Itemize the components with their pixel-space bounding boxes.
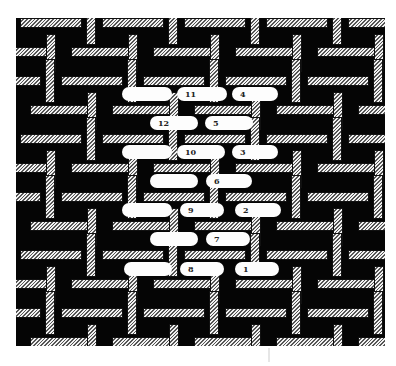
vertical-strip: [86, 117, 96, 161]
horizontal-strip: [225, 76, 287, 86]
horizontal-strip: [30, 337, 92, 346]
vertical-strip: [86, 18, 96, 45]
horizontal-strip: [20, 18, 82, 28]
marker-label: 5: [213, 116, 219, 130]
horizontal-strip: [102, 250, 164, 260]
horizontal-strip: [184, 134, 246, 144]
horizontal-strip: [20, 134, 82, 144]
scan-artifact: [268, 348, 270, 362]
horizontal-strip: [358, 337, 385, 346]
horizontal-strip: [317, 47, 379, 57]
horizontal-strip: [276, 337, 338, 346]
horizontal-strip: [194, 337, 256, 346]
vertical-strip: [168, 18, 178, 45]
horizontal-strip: [276, 105, 338, 115]
marker-5: 5: [205, 116, 253, 130]
horizontal-strip: [307, 76, 369, 86]
marker-label: 11: [185, 87, 196, 101]
horizontal-strip: [184, 250, 246, 260]
horizontal-strip: [235, 163, 297, 173]
vertical-strip: [127, 291, 137, 335]
horizontal-strip: [16, 76, 41, 86]
horizontal-strip: [61, 192, 123, 202]
marker-blank: [122, 87, 172, 101]
horizontal-strip: [235, 279, 297, 289]
horizontal-strip: [194, 221, 256, 231]
horizontal-strip: [153, 279, 215, 289]
horizontal-strip: [307, 192, 369, 202]
marker-6: 6: [206, 174, 252, 188]
vertical-strip: [209, 291, 219, 335]
horizontal-strip: [266, 134, 328, 144]
vertical-strip: [332, 18, 342, 45]
horizontal-strip: [266, 18, 328, 28]
marker-blank: [124, 262, 172, 276]
marker-3: 3: [232, 145, 278, 159]
marker-label: 9: [188, 203, 194, 217]
horizontal-strip: [358, 105, 385, 115]
horizontal-strip: [20, 250, 82, 260]
horizontal-strip: [184, 18, 246, 28]
marker-label: 1: [243, 262, 249, 276]
vertical-strip: [333, 324, 343, 346]
horizontal-strip: [71, 279, 133, 289]
horizontal-strip: [225, 192, 287, 202]
vertical-strip: [373, 291, 383, 335]
horizontal-strip: [358, 221, 385, 231]
horizontal-strip: [225, 308, 287, 318]
marker-12: 12: [150, 116, 198, 130]
horizontal-strip: [153, 47, 215, 57]
marker-2: 2: [235, 203, 281, 217]
marker-8: 8: [180, 262, 224, 276]
marker-label: 7: [214, 232, 220, 246]
marker-1: 1: [235, 262, 279, 276]
vertical-strip: [291, 291, 301, 335]
horizontal-strip: [235, 47, 297, 57]
marker-label: 4: [240, 87, 246, 101]
horizontal-strip: [61, 76, 123, 86]
vertical-strip: [45, 291, 55, 335]
horizontal-strip: [30, 221, 92, 231]
vertical-strip: [332, 117, 342, 161]
horizontal-strip: [143, 192, 205, 202]
horizontal-strip: [307, 308, 369, 318]
vertical-strip: [87, 324, 97, 346]
horizontal-strip: [16, 192, 41, 202]
horizontal-strip: [153, 163, 215, 173]
horizontal-strip: [276, 221, 338, 231]
vertical-strip: [291, 175, 301, 219]
marker-7: 7: [206, 232, 250, 246]
horizontal-strip: [348, 250, 385, 260]
vertical-strip: [169, 324, 179, 346]
horizontal-strip: [143, 76, 205, 86]
horizontal-strip: [112, 337, 174, 346]
vertical-strip: [373, 59, 383, 103]
marker-9: 9: [180, 203, 224, 217]
vertical-strip: [332, 233, 342, 277]
horizontal-strip: [112, 221, 174, 231]
marker-11: 11: [177, 87, 227, 101]
vertical-strip: [291, 59, 301, 103]
marker-label: 10: [185, 145, 196, 159]
horizontal-strip: [16, 308, 41, 318]
horizontal-strip: [30, 105, 92, 115]
marker-label: 3: [240, 145, 246, 159]
horizontal-strip: [71, 163, 133, 173]
weave-pattern: [16, 18, 385, 346]
vertical-strip: [250, 18, 260, 45]
marker-10: 10: [177, 145, 225, 159]
vertical-strip: [45, 175, 55, 219]
marker-label: 8: [188, 262, 194, 276]
marker-blank: [150, 232, 198, 246]
horizontal-strip: [266, 250, 328, 260]
marker-blank: [122, 203, 172, 217]
marker-label: 6: [214, 174, 220, 188]
horizontal-strip: [112, 105, 174, 115]
horizontal-strip: [348, 134, 385, 144]
horizontal-strip: [102, 18, 164, 28]
vertical-strip: [45, 59, 55, 103]
horizontal-strip: [143, 308, 205, 318]
horizontal-strip: [61, 308, 123, 318]
marker-4: 4: [232, 87, 278, 101]
horizontal-strip: [71, 47, 133, 57]
